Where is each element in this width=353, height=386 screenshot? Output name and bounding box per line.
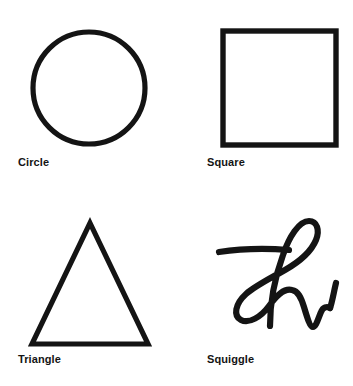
shape-figure-sheet: Circle Square Triangle Squiggle (0, 0, 353, 386)
shape-cell-circle: Circle (0, 0, 176, 193)
squiggle-scribble-icon (177, 193, 353, 353)
shape-cell-square: Square (177, 0, 353, 193)
shape-label-circle: Circle (18, 157, 49, 168)
shape-cell-triangle: Triangle (0, 193, 176, 386)
square-outline-icon (177, 0, 353, 155)
shape-label-squiggle: Squiggle (207, 354, 254, 365)
shape-cell-squiggle: Squiggle (177, 193, 353, 386)
circle-outline-icon (0, 0, 176, 155)
shape-label-square: Square (207, 157, 245, 168)
shape-label-triangle: Triangle (18, 354, 61, 365)
triangle-outline-icon (0, 193, 176, 353)
